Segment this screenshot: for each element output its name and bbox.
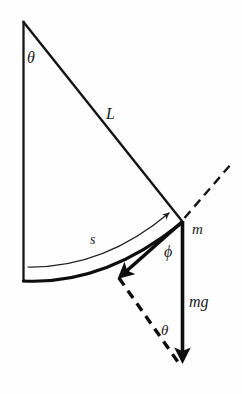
label-phi: ϕ (164, 243, 172, 261)
radial-extension-dashed-line (185, 163, 233, 218)
tangential-force-vector (122, 222, 182, 275)
pendulum-diagram-svg: θ L s m ϕ mg θ (0, 0, 242, 394)
label-length-L: L (105, 105, 115, 122)
label-theta-top: θ (27, 49, 35, 66)
arc-length-s (28, 213, 169, 267)
label-mass-m: m (192, 221, 203, 237)
label-weight-mg: mg (189, 293, 209, 311)
swing-path-arc (24, 225, 180, 282)
label-arc-s: s (90, 232, 96, 247)
label-theta-bottom: θ (161, 322, 169, 338)
normal-component-dashed-vector (119, 278, 178, 362)
pendulum-string (24, 22, 183, 221)
pendulum-diagram-canvas: θ L s m ϕ mg θ (0, 0, 242, 394)
